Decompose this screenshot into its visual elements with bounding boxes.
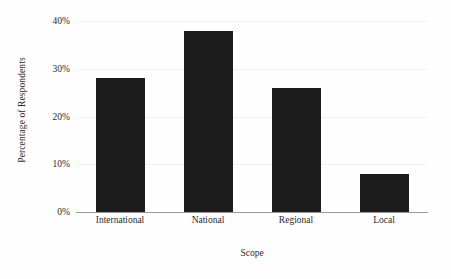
x-tick-label-national: National <box>192 215 225 225</box>
x-axis-tick-labels: InternationalNationalRegionalLocal <box>76 215 428 235</box>
x-axis-line <box>76 212 428 213</box>
bars-layer <box>76 21 428 212</box>
x-tick-label-regional: Regional <box>279 215 313 225</box>
x-tick-label-local: Local <box>373 215 395 225</box>
y-tick-label: 30% <box>30 64 70 74</box>
y-tick-label: 40% <box>30 16 70 26</box>
x-axis-title: Scope <box>76 248 428 258</box>
bar-national[interactable] <box>184 31 233 212</box>
x-tick-label-international: International <box>96 215 145 225</box>
y-tick-label: 20% <box>30 112 70 122</box>
y-tick-label: 10% <box>30 159 70 169</box>
bar-local[interactable] <box>360 174 409 212</box>
bar-regional[interactable] <box>272 88 321 212</box>
y-axis-tick-labels: 0%10%20%30%40% <box>30 0 70 279</box>
bar-international[interactable] <box>96 78 145 212</box>
bar-chart-figure: Percentage of Respondents 0%10%20%30%40%… <box>0 0 451 279</box>
y-tick-label: 0% <box>30 207 70 217</box>
